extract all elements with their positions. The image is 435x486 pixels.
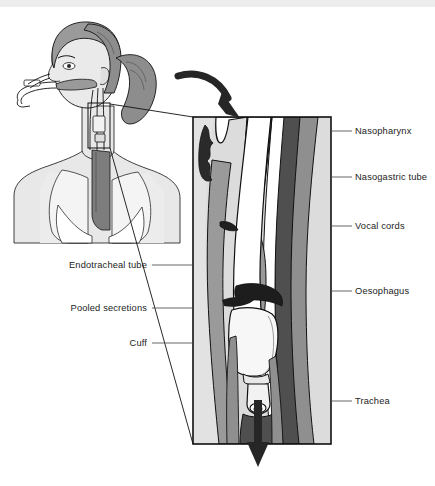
et-tube-bend (17, 100, 30, 107)
label-nasopharynx: Nasopharynx (355, 126, 412, 136)
label-nasogastric-tube: Nasogastric tube (355, 172, 427, 182)
inspiratory-flow-arrow-top (178, 74, 228, 98)
scan-top-band (0, 0, 435, 7)
trachea-wall-left (227, 336, 239, 444)
labels-right-group: Nasopharynx Nasogastric tube Vocal cords… (331, 126, 427, 406)
et-tube-outer-lower (21, 88, 56, 104)
detail-panel-group (193, 117, 331, 444)
label-trachea: Trachea (355, 396, 390, 406)
airflow-arrowhead-bottom (247, 442, 269, 467)
labels-left-group: Endotracheal tube Pooled secretions Cuff (69, 260, 193, 348)
trachea-figure (92, 150, 110, 230)
zoom-connector-lines (110, 104, 193, 444)
label-endotracheal-tube: Endotracheal tube (69, 260, 147, 270)
medical-diagram: Endotracheal tube Pooled secretions Cuff… (0, 0, 435, 486)
label-oesophagus: Oesophagus (355, 286, 409, 296)
cuff-block-lower (95, 134, 105, 142)
label-cuff: Cuff (130, 338, 148, 348)
label-pooled-secretions: Pooled secretions (71, 303, 148, 313)
cuff-block-figure (93, 116, 105, 132)
airflow-arrow-shaft (254, 400, 262, 448)
pupil (67, 64, 71, 68)
patient-figure (14, 22, 180, 243)
label-vocal-cords: Vocal cords (355, 221, 405, 231)
